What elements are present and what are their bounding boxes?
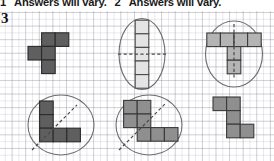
cell [227,124,241,138]
cell [40,101,54,115]
cell [240,124,254,138]
answer-number-2: 2 [115,0,121,8]
cell [213,97,227,111]
answer-number-1: 1 [0,0,6,8]
cell [248,33,262,47]
cell [151,128,165,142]
cell [227,111,241,125]
cell [55,33,69,47]
figure-1-pentomino-f-shape [28,26,84,82]
figure-6-cells [213,97,254,138]
figure-5-pentomino-w-shape [110,92,188,160]
answer-item-1: 1Answers will vary. [0,0,107,8]
answer-text-2: Answers will vary. [129,0,222,8]
cell [28,46,42,60]
cell [124,100,138,114]
figure-4-pentomino-l-shape [22,92,100,160]
answer-text-1: Answers will vary. [14,0,107,8]
figure-4-svg [22,92,100,160]
figure-1-svg [28,26,84,82]
cell [135,20,149,34]
cell [42,46,56,60]
question-number: 3 [1,11,9,26]
cell [164,128,178,142]
cell [135,75,149,89]
figure-6-svg [213,97,273,155]
enclosure-circle [28,95,94,155]
answer-item-2: 2Answers will vary. [115,0,222,8]
figure-2-pentomino-i-strip [104,17,180,91]
cell [42,60,56,74]
figure-2-svg [104,17,180,91]
cell [207,33,221,47]
answers-header: 1Answers will vary.2Answers will vary. [0,0,274,9]
cell [124,114,138,128]
figure-1-cells [28,33,69,74]
cell [220,33,234,47]
figure-3-svg [196,17,272,91]
figure-6-pentomino-s-shape [213,97,273,155]
cell [53,128,67,142]
figure-5-cells [124,100,178,141]
cell [227,97,241,111]
figure-3-pentomino-t-shape [196,17,272,91]
cell [42,33,56,47]
cell [137,100,151,114]
cell [135,61,149,75]
worksheet-page: 1Answers will vary.2Answers will vary. 3 [0,0,274,161]
cell [67,128,81,142]
symmetry-line-diagonal [32,105,77,150]
cell [135,34,149,48]
cell [234,33,248,47]
figure-5-svg [110,92,188,160]
cell [40,115,54,129]
